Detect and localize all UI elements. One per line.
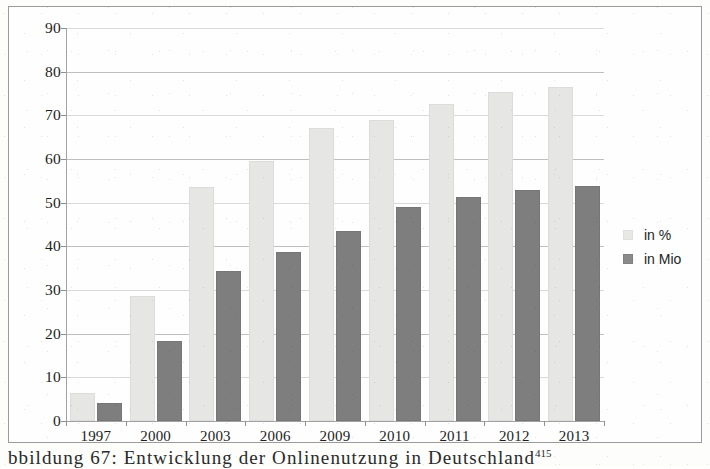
bar-group bbox=[249, 28, 301, 421]
bar-pct bbox=[369, 120, 394, 421]
bar-mio bbox=[216, 271, 241, 421]
x-axis-tick-label: 2010 bbox=[365, 428, 425, 445]
x-axis-tick-label: 2012 bbox=[484, 428, 544, 445]
x-axis-tick-label: 2009 bbox=[305, 428, 365, 445]
bar-group bbox=[70, 28, 122, 421]
y-axis-tick-label: 20 bbox=[21, 326, 61, 342]
x-axis-tick-mark bbox=[66, 421, 67, 426]
y-axis-tick-mark bbox=[61, 246, 66, 247]
bar-pct bbox=[548, 87, 573, 421]
y-axis-tick-mark bbox=[61, 290, 66, 291]
legend-item: in Mio bbox=[623, 247, 709, 271]
legend-label: in % bbox=[644, 227, 671, 243]
x-axis-tick-mark bbox=[126, 421, 127, 426]
y-axis-tick-mark bbox=[61, 377, 66, 378]
x-axis-tick-mark bbox=[245, 421, 246, 426]
y-axis-tick-mark bbox=[61, 159, 66, 160]
bar-pct bbox=[70, 393, 95, 421]
legend-label: in Mio bbox=[644, 251, 681, 267]
bar-pct bbox=[189, 187, 214, 421]
x-axis-tick-label: 1997 bbox=[66, 428, 126, 445]
x-axis-tick-label: 2011 bbox=[425, 428, 485, 445]
y-axis-labels: 0102030405060708090 bbox=[17, 28, 61, 421]
bar-mio bbox=[336, 231, 361, 421]
y-axis-tick-mark bbox=[61, 334, 66, 335]
bar-group bbox=[548, 28, 600, 421]
bar-mio bbox=[276, 252, 301, 421]
chart-figure: 0102030405060708090 in %in Mio 199720002… bbox=[8, 6, 702, 443]
x-axis-tick-mark bbox=[186, 421, 187, 426]
y-axis-tick-mark bbox=[61, 28, 66, 29]
bar-group bbox=[189, 28, 241, 421]
y-axis-tick-label: 0 bbox=[21, 413, 61, 429]
y-axis-tick-label: 30 bbox=[21, 282, 61, 298]
y-axis-tick-mark bbox=[61, 72, 66, 73]
y-axis-tick-label: 10 bbox=[21, 370, 61, 386]
figure-caption-text: bbildung 67: Entwicklung der Onlinenutzu… bbox=[8, 447, 535, 468]
x-axis-tick-mark bbox=[604, 421, 605, 426]
figure-caption: bbildung 67: Entwicklung der Onlinenutzu… bbox=[8, 447, 702, 469]
bar-pct bbox=[130, 296, 155, 421]
bar-pct bbox=[429, 104, 454, 421]
bar-group bbox=[130, 28, 182, 421]
bar-group bbox=[429, 28, 481, 421]
y-axis-tick-label: 70 bbox=[21, 108, 61, 124]
bar-pct bbox=[249, 161, 274, 421]
bar-pct bbox=[488, 92, 513, 421]
bar-mio bbox=[157, 341, 182, 421]
x-axis-line bbox=[66, 421, 605, 422]
x-axis-tick-mark bbox=[544, 421, 545, 426]
y-axis-tick-label: 40 bbox=[21, 239, 61, 255]
x-axis-tick-mark bbox=[365, 421, 366, 426]
x-axis-tick-mark bbox=[305, 421, 306, 426]
figure-caption-footnote: 415 bbox=[535, 447, 552, 459]
bar-mio bbox=[396, 207, 421, 421]
y-axis-tick-mark bbox=[61, 115, 66, 116]
bar-group bbox=[369, 28, 421, 421]
bar-pct bbox=[309, 128, 334, 421]
y-axis-tick-label: 90 bbox=[21, 20, 61, 36]
y-axis-tick-label: 60 bbox=[21, 151, 61, 167]
bar-group bbox=[309, 28, 361, 421]
bar-group bbox=[488, 28, 540, 421]
y-axis-line bbox=[66, 28, 67, 422]
y-axis-tick-label: 50 bbox=[21, 195, 61, 211]
bar-mio bbox=[575, 186, 600, 421]
y-axis-tick-label: 80 bbox=[21, 64, 61, 80]
bar-mio bbox=[515, 190, 540, 421]
x-axis-tick-label: 2003 bbox=[186, 428, 246, 445]
x-axis-tick-mark bbox=[425, 421, 426, 426]
bar-mio bbox=[97, 403, 122, 421]
bar-mio bbox=[456, 197, 481, 421]
chart-legend: in %in Mio bbox=[623, 223, 709, 271]
x-axis-tick-label: 2006 bbox=[245, 428, 305, 445]
plot-area bbox=[66, 28, 604, 421]
x-axis-tick-label: 2000 bbox=[126, 428, 186, 445]
legend-item: in % bbox=[623, 223, 709, 247]
x-axis-tick-label: 2013 bbox=[544, 428, 604, 445]
legend-swatch-pct bbox=[623, 230, 633, 240]
y-axis-tick-mark bbox=[61, 203, 66, 204]
legend-swatch-mio bbox=[623, 254, 633, 264]
x-axis-tick-mark bbox=[484, 421, 485, 426]
